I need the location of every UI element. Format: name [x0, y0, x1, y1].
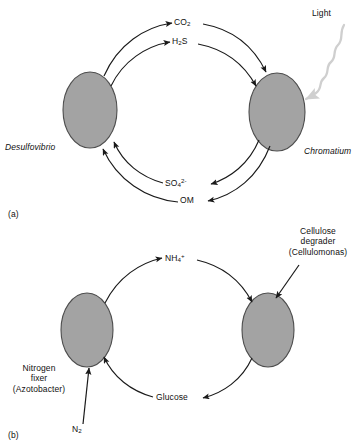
flow-label-so4: SO42- [165, 177, 187, 188]
flow-arc-h2s-in [198, 44, 256, 86]
nitrogen-fixer-line3: (Azotobacter) [3, 384, 75, 394]
cell-chromatium [249, 73, 305, 151]
cellulose-degrader-line3: (Cellulomonas) [276, 247, 360, 257]
flow-label-glucose: Glucose [156, 392, 188, 402]
cell-desulfovibrio [63, 72, 117, 148]
organism-label-nitrogen-fixer: Nitrogen fixer (Azotobacter) [3, 363, 75, 394]
flow-arc-glucose-out [203, 358, 252, 398]
n2-input-arrow [83, 368, 89, 424]
light-wavy-arrow [306, 25, 344, 99]
cell-nitrogen-fixer [61, 293, 113, 367]
organism-label-chromatium: Chromatium [304, 146, 351, 156]
n2-input-label-text: N2 [72, 424, 82, 434]
flow-label-h2s-text: H2S [172, 36, 188, 46]
flow-label-h2s: H2S [172, 36, 188, 47]
cell-cellulose-degrader [242, 293, 294, 367]
cellulose-degrader-pointer-arrow [276, 265, 299, 298]
nitrogen-fixer-line1: Nitrogen [3, 363, 75, 373]
flow-arc-glucose-in [104, 357, 153, 397]
flow-label-nh4-text: NH4+ [165, 253, 185, 263]
organism-label-desulfovibrio: Desulfovibrio [5, 142, 55, 152]
panel-label-a: (a) [8, 209, 19, 219]
panel-label-b: (b) [8, 430, 19, 440]
n2-input-label: N2 [72, 424, 82, 435]
flow-arc-so4-in [114, 142, 163, 183]
figure-container: CO2 H2S SO42- OM Desulfovibrio Chromatiu… [0, 0, 360, 448]
flow-arc-nh4-in [197, 260, 252, 302]
flow-label-so4-text: SO42- [165, 178, 187, 188]
flow-label-co2-text: CO2 [174, 17, 191, 27]
light-label: Light [312, 8, 331, 18]
flow-label-co2: CO2 [174, 17, 191, 28]
flow-label-om: OM [180, 195, 194, 205]
flow-arc-om-in [103, 149, 178, 202]
nitrogen-fixer-line2: fixer [3, 373, 75, 383]
flow-arc-so4-out [211, 140, 259, 184]
organism-label-cellulose-degrader: Cellulose degrader (Cellulomonas) [276, 226, 360, 257]
cellulose-degrader-line1: Cellulose [276, 226, 360, 236]
flow-arc-h2s-out [111, 42, 170, 86]
flow-arc-nh4-out [105, 258, 162, 303]
flow-label-om-text: OM [180, 195, 194, 205]
cellulose-degrader-line2: degrader [276, 236, 360, 246]
flow-arc-co2-out [104, 23, 172, 76]
flow-label-nh4: NH4+ [165, 252, 185, 263]
flow-arc-om-out [208, 146, 270, 201]
